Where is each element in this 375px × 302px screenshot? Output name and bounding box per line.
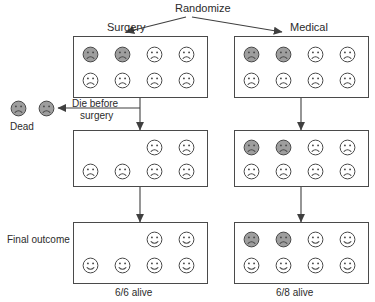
sad-face-icon	[146, 46, 163, 63]
sad-face-icon	[275, 163, 292, 180]
sad-face-icon	[243, 163, 260, 180]
happy-face-icon	[307, 257, 324, 274]
happy-face-icon	[339, 231, 356, 248]
happy-face-icon	[243, 257, 260, 274]
happy-face-icon	[114, 257, 131, 274]
sad-face-icon	[243, 139, 260, 156]
happy-face-icon	[178, 231, 195, 248]
sad-face-icon	[114, 46, 131, 63]
sad-face-icon	[307, 46, 324, 63]
sad-face-icon	[10, 100, 27, 117]
sad-face-icon	[307, 163, 324, 180]
sad-face-icon	[339, 139, 356, 156]
sad-face-icon	[146, 72, 163, 89]
final-outcome-label: Final outcome	[7, 235, 70, 245]
sad-face-icon	[307, 139, 324, 156]
happy-face-icon	[146, 257, 163, 274]
randomize-fork-arrows	[126, 17, 282, 32]
sad-face-icon	[178, 139, 195, 156]
sad-face-icon	[339, 163, 356, 180]
happy-face-icon	[146, 231, 163, 248]
arm-label-surgery: Surgery	[107, 22, 146, 33]
sad-face-icon	[178, 163, 195, 180]
sad-face-icon	[82, 163, 99, 180]
caption-right: 6/8 alive	[276, 288, 313, 298]
happy-face-icon	[82, 257, 99, 274]
sad-face-icon	[114, 163, 131, 180]
sad-face-icon	[275, 72, 292, 89]
sad-face-icon	[339, 72, 356, 89]
randomize-label: Randomize	[175, 3, 231, 14]
die-before-surgery-label-line2: surgery	[80, 111, 113, 121]
sad-face-icon	[307, 72, 324, 89]
dead-label: Dead	[10, 122, 34, 132]
happy-face-icon	[307, 231, 324, 248]
sad-face-icon	[275, 46, 292, 63]
sad-face-icon	[38, 100, 55, 117]
sad-face-icon	[275, 139, 292, 156]
sad-face-icon	[243, 46, 260, 63]
sad-face-icon	[82, 72, 99, 89]
sad-face-icon	[339, 46, 356, 63]
sad-face-icon	[82, 46, 99, 63]
sad-face-icon	[243, 72, 260, 89]
caption-left: 6/6 alive	[115, 288, 152, 298]
sad-face-icon	[178, 72, 195, 89]
happy-face-icon	[275, 257, 292, 274]
sad-face-icon	[243, 231, 260, 248]
sad-face-icon	[146, 163, 163, 180]
arm-label-medical: Medical	[290, 22, 328, 33]
die-before-surgery-label-line1: Die before	[72, 99, 118, 109]
happy-face-icon	[178, 257, 195, 274]
sad-face-icon	[275, 231, 292, 248]
sad-face-icon	[178, 46, 195, 63]
sad-face-icon	[146, 139, 163, 156]
sad-face-icon	[114, 72, 131, 89]
trial-flow-diagram: Randomize Surgery Medical Die before sur…	[0, 0, 375, 302]
happy-face-icon	[339, 257, 356, 274]
